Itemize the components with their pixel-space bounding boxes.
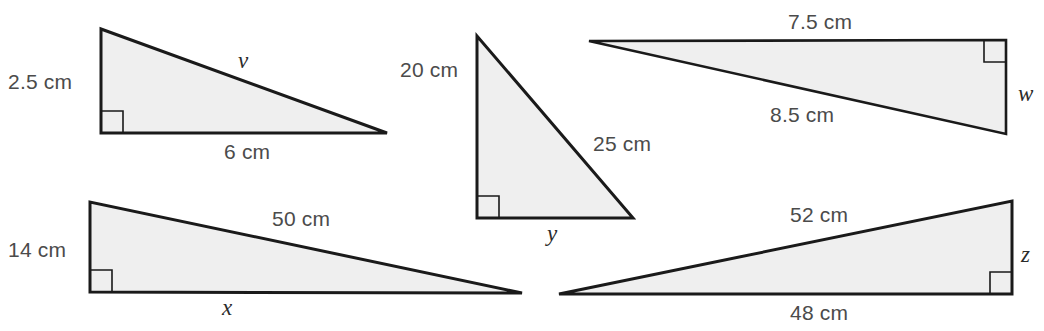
label-triangle-z-hypotenuse: 52 cm <box>790 204 848 226</box>
label-triangle-v-vertical-leg: 2.5 cm <box>8 71 72 93</box>
triangle-v-group <box>101 29 387 133</box>
triangle-y-shape <box>477 36 633 218</box>
label-triangle-z-horizontal-leg: 48 cm <box>790 302 848 324</box>
label-triangle-w-vertical-leg: w <box>1018 82 1033 106</box>
label-triangle-y-horizontal-leg: y <box>547 222 557 246</box>
label-triangle-v-hypotenuse: v <box>238 49 248 73</box>
label-triangle-w-hypotenuse: 8.5 cm <box>770 104 834 126</box>
label-triangle-x-horizontal-leg: x <box>222 296 232 320</box>
triangles-figure-canvas <box>0 0 1044 331</box>
label-triangle-y-vertical-leg: 20 cm <box>400 59 458 81</box>
label-triangle-v-horizontal-leg: 6 cm <box>224 141 270 163</box>
triangle-y-group <box>477 36 633 218</box>
triangle-v-shape <box>101 29 387 133</box>
label-triangle-x-hypotenuse: 50 cm <box>272 208 330 230</box>
label-triangle-z-vertical-leg: z <box>1021 243 1030 267</box>
label-triangle-w-horizontal-leg: 7.5 cm <box>788 11 852 33</box>
label-triangle-x-vertical-leg: 14 cm <box>8 239 66 261</box>
label-triangle-y-hypotenuse: 25 cm <box>593 133 651 155</box>
